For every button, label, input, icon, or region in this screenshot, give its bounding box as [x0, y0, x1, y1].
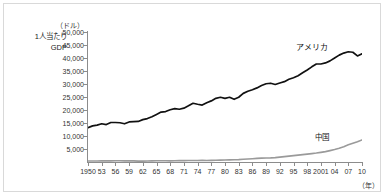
x-tick-label: 71	[180, 168, 188, 175]
chart-figure: （ドル） 1人当たり GDP 50,00045,00040,00035,0003…	[0, 0, 385, 196]
x-tick-mark	[198, 163, 199, 166]
y-tick-label: 20,000	[44, 107, 84, 114]
series-label-united-states: アメリカ	[296, 41, 328, 52]
x-tick-mark	[239, 163, 240, 166]
x-tick-label: 68	[166, 168, 174, 175]
y-tick-label: 25,000	[44, 94, 84, 101]
y-tick-mark	[83, 71, 87, 72]
y-tick-label: 40,000	[44, 55, 84, 62]
y-tick-mark	[83, 136, 87, 137]
y-tick-label: 15,000	[44, 120, 84, 127]
x-tick-mark	[157, 163, 158, 166]
y-tick-label: 50,000	[44, 29, 84, 36]
y-tick-mark	[83, 149, 87, 150]
y-tick-mark	[83, 84, 87, 85]
x-tick-mark	[348, 163, 349, 166]
y-tick-mark	[83, 58, 87, 59]
x-tick-mark	[115, 163, 116, 166]
x-tick-label: 56	[111, 168, 119, 175]
y-tick-label: 30,000	[44, 81, 84, 88]
y-tick-label: 45,000	[44, 42, 84, 49]
x-tick-label: 89	[262, 168, 270, 175]
x-tick-mark	[88, 163, 89, 166]
x-tick-mark	[321, 163, 322, 166]
x-tick-label: 77	[207, 168, 215, 175]
x-tick-label: 1950	[80, 168, 96, 175]
x-tick-mark	[362, 163, 363, 166]
x-tick-label: 65	[153, 168, 161, 175]
x-axis-unit-label: （年）	[358, 180, 379, 190]
y-tick-mark	[83, 45, 87, 46]
y-tick-label: 5,000	[44, 146, 84, 153]
x-tick-label: 07	[344, 168, 352, 175]
x-tick-label: 86	[248, 168, 256, 175]
series-line-china	[88, 140, 362, 161]
y-tick-mark	[83, 97, 87, 98]
x-tick-label: 74	[194, 168, 202, 175]
x-tick-label: 62	[139, 168, 147, 175]
x-tick-label: 98	[303, 168, 311, 175]
x-tick-label: 04	[331, 168, 339, 175]
y-tick-mark	[83, 32, 87, 33]
x-tick-mark	[266, 163, 267, 166]
x-tick-label: 92	[276, 168, 284, 175]
x-tick-mark	[252, 163, 253, 166]
x-tick-mark	[335, 163, 336, 166]
x-tick-label: 53	[98, 168, 106, 175]
x-tick-mark	[307, 163, 308, 166]
x-tick-mark	[102, 163, 103, 166]
y-tick-mark	[83, 123, 87, 124]
x-tick-mark	[184, 163, 185, 166]
x-tick-mark	[294, 163, 295, 166]
x-tick-mark	[211, 163, 212, 166]
x-tick-mark	[280, 163, 281, 166]
y-tick-label: 10,000	[44, 133, 84, 140]
x-tick-label: 95	[290, 168, 298, 175]
x-tick-mark	[129, 163, 130, 166]
y-tick-label: 35,000	[44, 68, 84, 75]
x-tick-label: 10	[358, 168, 366, 175]
x-tick-mark	[143, 163, 144, 166]
x-tick-label: 83	[235, 168, 243, 175]
x-tick-label: 80	[221, 168, 229, 175]
y-tick-mark	[83, 110, 87, 111]
x-tick-label: 2001	[313, 168, 329, 175]
x-tick-label: 59	[125, 168, 133, 175]
series-line-united-states	[88, 52, 362, 128]
x-tick-mark	[170, 163, 171, 166]
x-tick-mark	[225, 163, 226, 166]
series-label-china: 中国	[315, 131, 329, 142]
chart-plot-area: （ドル） 1人当たり GDP 50,00045,00040,00035,0003…	[0, 0, 385, 196]
